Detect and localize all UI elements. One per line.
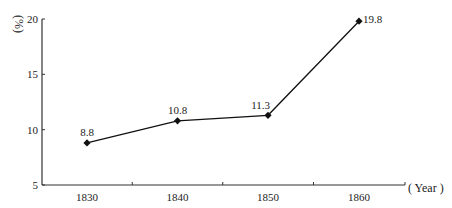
y-tick-label: 20 <box>27 13 39 25</box>
y-tick-label: 5 <box>33 179 39 191</box>
x-tick-label: 1830 <box>76 191 99 203</box>
data-label: 19.8 <box>363 13 383 25</box>
data-label: 11.3 <box>251 99 270 111</box>
y-axis-label: (%) <box>12 15 26 33</box>
series-line <box>87 21 359 143</box>
ticks: 51015201830184018501860 <box>27 13 371 203</box>
series: 8.810.811.319.8 <box>80 13 383 146</box>
y-tick-label: 15 <box>27 68 39 80</box>
data-label: 10.8 <box>168 104 188 116</box>
x-tick-label: 1850 <box>257 191 280 203</box>
x-tick-label: 1860 <box>348 191 371 203</box>
x-tick-label: 1840 <box>167 191 190 203</box>
line-chart: 51015201830184018501860 8.810.811.319.8 … <box>0 0 452 208</box>
data-label: 8.8 <box>80 126 94 138</box>
data-point-marker <box>83 139 90 146</box>
axes <box>42 19 405 185</box>
x-axis-label: ( Year ) <box>408 181 444 195</box>
data-point-marker <box>174 117 181 124</box>
y-tick-label: 10 <box>27 124 39 136</box>
